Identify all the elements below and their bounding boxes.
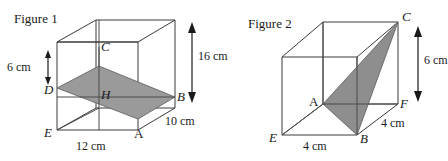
fig1-edge-topleft — [57, 20, 96, 42]
figure1-vertex-D: D — [44, 83, 53, 96]
fig1-internal-receding-edge — [57, 108, 99, 130]
geometry-figure-page: Figure 1 C D H B E A 6 cm 16 cm 10 cm 12… — [0, 0, 448, 161]
figure2-vertex-C: C — [402, 10, 411, 23]
figure1-dim-12cm: 12 cm — [76, 140, 106, 152]
figure1-vertex-E: E — [44, 126, 52, 139]
figure2-vertex-F: F — [400, 97, 408, 110]
fig1-edge-topright — [138, 20, 175, 42]
figures-canvas — [0, 0, 448, 161]
figure2-vertex-A: A — [309, 95, 318, 108]
fig1-shaded-parallelogram — [57, 66, 175, 119]
figure1-vertex-C: C — [101, 40, 110, 53]
figure1-vertex-A: A — [134, 127, 143, 140]
figure2-dim-4cm-depth: 4 cm — [381, 117, 405, 129]
figure1-vertex-B: B — [177, 90, 185, 103]
figure2-dim-6cm: 6 cm — [424, 54, 448, 66]
figure1-title: Figure 1 — [14, 12, 58, 25]
figure1-vertex-H: H — [101, 88, 110, 101]
figure2-title: Figure 2 — [248, 17, 292, 30]
figure1-dim-6cm: 6 cm — [7, 61, 31, 73]
figure1-dim-16cm: 16 cm — [198, 50, 228, 62]
fig1-dim-16cm-arrow — [188, 22, 196, 103]
figure2-dim-4cm-width: 4 cm — [303, 140, 327, 152]
figure1-dim-10cm: 10 cm — [165, 115, 195, 127]
fig2-dim-6cm-arrow — [414, 26, 422, 102]
fig1-dim-6cm-arrow — [45, 50, 51, 85]
figure2-vertex-E: E — [269, 131, 277, 144]
figure2-vertex-B: B — [360, 132, 368, 145]
